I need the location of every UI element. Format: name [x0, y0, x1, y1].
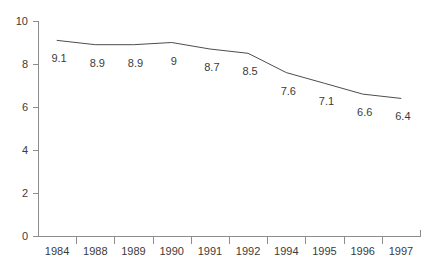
x-tick-label: 1991	[198, 245, 222, 257]
y-axis: 0246810	[16, 15, 39, 242]
data-label-group: 9.18.98.998.78.57.67.16.66.4	[51, 52, 410, 122]
data-point-label: 7.1	[319, 95, 334, 107]
data-point-label: 8.9	[128, 57, 143, 69]
data-series-group	[57, 40, 401, 98]
chart-canvas: 0246810 19841988198919901991199219941995…	[0, 0, 436, 274]
x-tick-label: 1997	[389, 245, 413, 257]
data-line	[57, 40, 401, 98]
data-point-label: 8.9	[90, 57, 105, 69]
y-tick-group: 0246810	[16, 15, 39, 242]
y-tick-label: 2	[22, 187, 28, 199]
x-tick-label: 1984	[45, 245, 69, 257]
x-tick-label: 1989	[121, 245, 145, 257]
y-tick-label: 8	[22, 58, 28, 70]
x-tick-group: 1984198819891990199119921994199519961997	[45, 237, 413, 258]
y-tick-label: 4	[22, 144, 28, 156]
y-tick-label: 10	[16, 15, 28, 27]
data-point-label: 9	[171, 55, 177, 67]
x-tick-label: 1992	[236, 245, 260, 257]
x-tick-label: 1995	[312, 245, 336, 257]
data-point-label: 8.7	[204, 61, 219, 73]
y-tick-label: 0	[22, 230, 28, 242]
x-tick-label: 1988	[83, 245, 107, 257]
x-tick-label: 1996	[350, 245, 374, 257]
data-point-label: 6.6	[357, 106, 372, 118]
x-tick-label: 1990	[159, 245, 183, 257]
x-axis: 1984198819891990199119921994199519961997	[39, 230, 421, 258]
data-point-label: 7.6	[281, 85, 296, 97]
data-point-label: 9.1	[51, 52, 66, 64]
data-point-label: 8.5	[242, 65, 257, 77]
line-chart: 0246810 19841988198919901991199219941995…	[0, 0, 436, 274]
data-point-label: 6.4	[395, 110, 410, 122]
y-tick-label: 6	[22, 101, 28, 113]
x-tick-label: 1994	[274, 245, 298, 257]
